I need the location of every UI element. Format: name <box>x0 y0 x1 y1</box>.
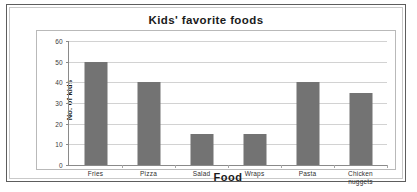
gridline <box>69 41 387 42</box>
gridline <box>69 124 387 125</box>
y-axis-tick-label: 50 <box>55 58 63 65</box>
bar <box>243 134 266 165</box>
x-axis-tick-mark <box>387 165 388 168</box>
y-axis-tick-label: 10 <box>55 141 63 148</box>
x-axis-tick-mark <box>175 165 176 168</box>
x-axis-tick-mark <box>122 165 123 168</box>
y-axis-tick-mark <box>66 82 69 83</box>
x-axis-tick-label: Wraps <box>245 170 265 178</box>
x-axis-tick-mark <box>281 165 282 168</box>
y-axis-tick-mark <box>66 41 69 42</box>
y-axis-tick-mark <box>66 62 69 63</box>
y-axis-tick-label: 20 <box>55 120 63 127</box>
bar <box>137 82 160 165</box>
x-axis-tick-mark <box>334 165 335 168</box>
y-axis-tick-label: 60 <box>55 38 63 45</box>
bar <box>190 134 213 165</box>
x-axis-title: Food <box>69 171 387 183</box>
y-axis-tick-mark <box>66 103 69 104</box>
y-axis-tick-label: 30 <box>55 100 63 107</box>
x-axis-tick-label: Chicken nuggets <box>348 170 373 186</box>
bar <box>84 62 107 165</box>
gridline <box>69 62 387 63</box>
x-axis-tick-mark <box>228 165 229 168</box>
chart-title: Kids' favorite foods <box>10 14 402 26</box>
y-axis-tick-mark <box>66 165 69 166</box>
x-axis-tick-label: Salad <box>193 170 211 178</box>
chart-inner-frame: Kids' favorite foods No. of kids Food 01… <box>9 7 403 179</box>
bar <box>296 82 319 165</box>
plot-box: No. of kids Food 0102030405060FriesPizza… <box>36 30 396 170</box>
x-axis-tick-label: Pizza <box>140 170 157 178</box>
x-axis-tick-label: Fries <box>88 170 103 178</box>
gridline <box>69 103 387 104</box>
x-axis-tick-label: Pasta <box>299 170 317 178</box>
gridline <box>69 82 387 83</box>
y-axis-tick-mark <box>66 144 69 145</box>
chart-outer-frame: Kids' favorite foods No. of kids Food 01… <box>6 4 406 182</box>
y-axis-tick-label: 40 <box>55 79 63 86</box>
plot-area: Food 0102030405060FriesPizzaSaladWrapsPa… <box>68 41 387 166</box>
bar <box>349 93 372 165</box>
y-axis-tick-label: 0 <box>59 162 63 169</box>
y-axis-tick-mark <box>66 124 69 125</box>
gridline <box>69 144 387 145</box>
